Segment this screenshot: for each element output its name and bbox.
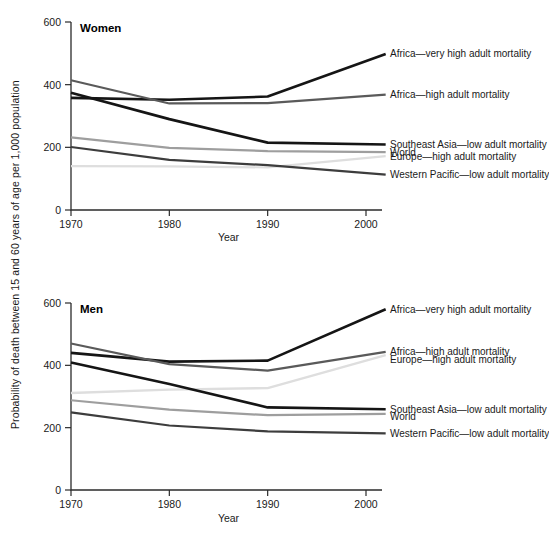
series-label: Africa—very high adult mortality (390, 304, 531, 315)
panel-title-men: Men (80, 303, 103, 315)
y-axis-label-container: Probability of death between 15 and 60 y… (0, 0, 30, 558)
panel-title-women: Women (80, 22, 121, 34)
x-tick-label-1970: 1970 (59, 218, 83, 230)
series-line[interactable] (71, 156, 386, 167)
y-tick-label-600: 600 (43, 16, 61, 28)
y-tick-label-400: 400 (43, 359, 61, 371)
charts-svg: 02004006001970198019902000YearWomenAfric… (0, 0, 549, 558)
x-tick-label-1980: 1980 (158, 218, 182, 230)
chart-panel-men: 02004006001970198019902000YearMenAfrica—… (43, 297, 549, 524)
x-tick-label-1990: 1990 (256, 218, 280, 230)
y-tick-label-200: 200 (43, 141, 61, 153)
series-line[interactable] (71, 54, 386, 100)
series-label: World (390, 411, 416, 422)
x-tick-label-1990: 1990 (256, 498, 280, 510)
series-line[interactable] (71, 363, 386, 410)
x-tick-label-2000: 2000 (354, 218, 378, 230)
series-label: Western Pacific—low adult mortality (390, 428, 549, 439)
mortality-figure: Probability of death between 15 and 60 y… (0, 0, 549, 558)
x-axis-title: Year (218, 231, 240, 243)
series-label: Africa—very high adult mortality (390, 48, 531, 59)
x-axis-title: Year (218, 512, 240, 524)
series-label: Europe—high adult mortality (390, 354, 516, 365)
x-tick-label-1970: 1970 (59, 498, 83, 510)
x-tick-label-2000: 2000 (354, 498, 378, 510)
y-tick-label-400: 400 (43, 79, 61, 91)
y-tick-label-0: 0 (55, 484, 61, 496)
y-axis-label: Probability of death between 15 and 60 y… (9, 129, 21, 429)
y-tick-label-0: 0 (55, 204, 61, 216)
chart-panel-women: 02004006001970198019902000YearWomenAfric… (43, 16, 549, 243)
y-tick-label-200: 200 (43, 422, 61, 434)
series-label: Western Pacific—low adult mortality (390, 169, 549, 180)
series-label: Europe—high adult mortality (390, 151, 516, 162)
y-tick-label-600: 600 (43, 297, 61, 309)
x-tick-label-1980: 1980 (158, 498, 182, 510)
series-label: Africa—high adult mortality (390, 89, 510, 100)
series-line[interactable] (71, 93, 386, 145)
axis-lines (71, 22, 382, 210)
